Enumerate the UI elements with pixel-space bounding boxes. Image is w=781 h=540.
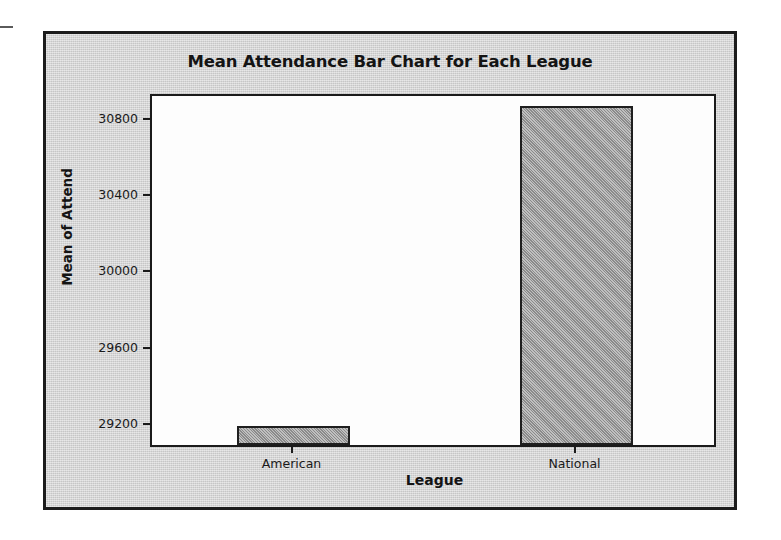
y-axis-tick: 29600 [46, 341, 150, 355]
y-axis-tick-label: 30800 [68, 112, 138, 126]
y-axis-tick-mark [143, 194, 150, 196]
y-axis-tick-label: 29200 [68, 417, 138, 431]
plot-area [150, 94, 716, 447]
y-axis-tick-mark [143, 270, 150, 272]
y-axis-tick: 30400 [46, 188, 150, 202]
chart-panel: Mean Attendance Bar Chart for Each Leagu… [43, 31, 737, 510]
y-axis-tick-mark [143, 118, 150, 120]
y-axis-tick: 30800 [46, 112, 150, 126]
x-axis-tick-label: National [495, 456, 655, 471]
bar-national[interactable] [520, 106, 633, 445]
y-axis-tick: 30000 [46, 264, 150, 278]
y-axis-tick-mark [143, 347, 150, 349]
chart-title: Mean Attendance Bar Chart for Each Leagu… [46, 52, 734, 71]
y-axis-tick: 29200 [46, 417, 150, 431]
y-axis-tick-label: 29600 [68, 341, 138, 355]
x-axis-title: League [150, 472, 719, 488]
y-axis-tick-label: 30400 [68, 188, 138, 202]
y-axis-tick-mark [143, 423, 150, 425]
bar-american[interactable] [237, 426, 350, 445]
y-axis-title: Mean of Attend [59, 142, 75, 312]
scan-artifact-dash [0, 26, 13, 28]
x-axis-tick-mark [574, 447, 576, 453]
x-axis-tick-label: American [212, 456, 372, 471]
x-axis-tick-mark [291, 447, 293, 453]
y-axis-tick-label: 30000 [68, 264, 138, 278]
bars-layer [152, 96, 714, 445]
